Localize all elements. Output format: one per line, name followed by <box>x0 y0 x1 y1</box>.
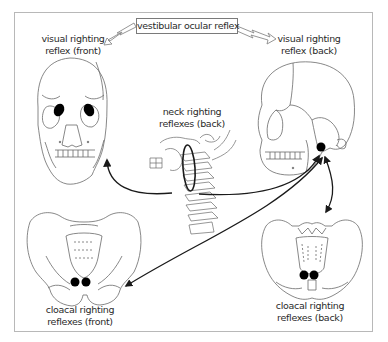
label-line: cloacal righting <box>40 304 120 316</box>
visual-righting-front-label: visual righting reflex (front) <box>38 33 108 57</box>
cloacal-righting-back-label: cloacal righting reflexes (back) <box>270 300 350 324</box>
skull-front <box>38 58 107 184</box>
label-line: reflexes (front) <box>40 316 120 328</box>
neck-righting-label: neck righting reflexes (back) <box>152 106 232 130</box>
cloacal-righting-front-label: cloacal righting reflexes (front) <box>40 304 120 328</box>
visual-righting-back-label: visual righting reflex (back) <box>274 33 344 57</box>
skull-side <box>258 62 354 175</box>
pubic-dot-left <box>71 278 80 287</box>
label-line: neck righting <box>152 106 232 118</box>
arrow-pelvis-back-to-inner-ear <box>325 157 333 212</box>
label-line: visual righting <box>274 33 344 45</box>
cervical-spine <box>150 130 236 234</box>
sacral-dot-right <box>310 271 319 280</box>
pelvis-back <box>262 220 363 299</box>
hollow-arrow-left-icon <box>104 23 136 45</box>
label-line: cloacal righting <box>270 300 350 312</box>
sacral-dot-left <box>300 271 309 280</box>
label-line: reflexes (back) <box>152 118 232 130</box>
pubic-dot-right <box>82 278 91 287</box>
label-line: visual righting <box>38 33 108 45</box>
vestibular-ocular-reflex-label: vestibular ocular reflex <box>136 18 238 34</box>
label-line: reflex (back) <box>274 45 344 57</box>
hollow-arrow-right-icon <box>237 26 276 44</box>
label-line: reflex (front) <box>38 45 108 57</box>
pelvis-front <box>27 213 141 306</box>
label-line: reflexes (back) <box>270 312 350 324</box>
inner-ear-dot <box>317 143 326 152</box>
